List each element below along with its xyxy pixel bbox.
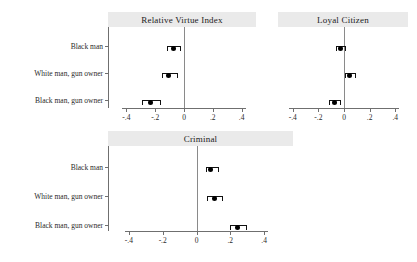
- confidence-interval-cap: [218, 167, 219, 172]
- coefficient-plot-figure: Relative Virtue Index Loyal Citizen Crim…: [0, 0, 417, 262]
- x-axis-tick-label: -.2: [314, 113, 322, 122]
- y-axis-category-label: Black man, gun owner: [35, 96, 103, 105]
- zero-reference-line: [184, 27, 185, 108]
- confidence-interval-cap: [345, 73, 346, 78]
- y-axis-tick: [105, 73, 108, 74]
- y-axis-line: [108, 27, 109, 108]
- panel-title: Loyal Citizen: [317, 15, 369, 25]
- y-axis-tick: [105, 167, 108, 168]
- plot-area: [108, 27, 256, 108]
- confidence-interval-cap: [180, 46, 181, 51]
- confidence-interval-cap: [167, 46, 168, 51]
- x-axis-tick-label: -.4: [125, 236, 133, 245]
- y-axis-category-label: Black man: [71, 163, 103, 172]
- x-axis-tick-label: .2: [367, 113, 373, 122]
- estimate-point-marker: [347, 73, 352, 78]
- y-axis-tick: [105, 196, 108, 197]
- confidence-interval-cap: [160, 100, 161, 105]
- confidence-interval-cap: [246, 225, 247, 230]
- x-axis-tick: [242, 109, 243, 112]
- x-axis-tick: [344, 109, 345, 112]
- x-axis-tick: [129, 232, 130, 235]
- x-axis-tick-label: 0: [195, 236, 199, 245]
- x-axis-tick-label: .4: [239, 113, 245, 122]
- x-axis-tick: [370, 109, 371, 112]
- estimate-point-marker: [212, 196, 217, 201]
- plot-area: [108, 146, 293, 231]
- confidence-interval-cap: [345, 46, 346, 51]
- zero-reference-line: [344, 27, 345, 108]
- y-axis-tick: [105, 46, 108, 47]
- x-axis-tick: [230, 232, 231, 235]
- x-axis-tick: [155, 109, 156, 112]
- x-axis-tick: [293, 109, 294, 112]
- x-axis-tick-label: .2: [227, 236, 233, 245]
- confidence-interval-cap: [142, 100, 143, 105]
- x-axis-tick-label: -.4: [122, 113, 130, 122]
- confidence-interval-cap: [207, 196, 208, 201]
- y-axis-category-label: White man, gun owner: [34, 192, 103, 201]
- y-axis-line: [108, 146, 109, 231]
- panel-relative-virtue-index: Relative Virtue Index: [108, 12, 256, 108]
- x-axis-tick-label: 0: [342, 113, 346, 122]
- x-axis-tick-label: -.2: [151, 113, 159, 122]
- panel-title-bar: Criminal: [108, 131, 293, 146]
- confidence-interval-cap: [162, 73, 163, 78]
- confidence-interval-cap: [329, 100, 330, 105]
- x-axis-tick: [163, 232, 164, 235]
- panel-title-bar: Relative Virtue Index: [108, 12, 256, 27]
- x-axis-tick: [318, 109, 319, 112]
- x-axis-tick-label: 0: [182, 113, 186, 122]
- confidence-interval-cap: [340, 100, 341, 105]
- y-axis-category-label: Black man: [71, 42, 103, 51]
- confidence-interval-cap: [177, 73, 178, 78]
- estimate-point-marker: [148, 100, 153, 105]
- x-axis-tick-label: .4: [392, 113, 398, 122]
- panel-title: Criminal: [184, 134, 218, 144]
- zero-reference-line: [197, 146, 198, 231]
- estimate-point-marker: [332, 100, 337, 105]
- panel-title-bar: Loyal Citizen: [278, 12, 408, 27]
- y-axis-tick: [105, 100, 108, 101]
- x-axis-tick: [395, 109, 396, 112]
- plot-area: [278, 27, 408, 108]
- confidence-interval-cap: [336, 46, 337, 51]
- x-axis-tick-label: -.4: [289, 113, 297, 122]
- y-axis-tick: [105, 225, 108, 226]
- y-axis-category-label: Black man, gun owner: [35, 221, 103, 230]
- panel-criminal: Criminal: [108, 131, 293, 231]
- x-axis-tick: [184, 109, 185, 112]
- x-axis-tick: [126, 109, 127, 112]
- x-axis-tick: [197, 232, 198, 235]
- panel-title: Relative Virtue Index: [141, 15, 222, 25]
- confidence-interval-cap: [222, 196, 223, 201]
- confidence-interval-cap: [230, 225, 231, 230]
- x-axis-tick-label: .4: [261, 236, 267, 245]
- x-axis-tick: [264, 232, 265, 235]
- panel-loyal-citizen: Loyal Citizen: [278, 12, 408, 108]
- x-axis-tick-label: .2: [210, 113, 216, 122]
- confidence-interval-cap: [206, 167, 207, 172]
- x-axis-tick: [213, 109, 214, 112]
- x-axis-tick-label: -.2: [159, 236, 167, 245]
- y-axis-category-label: White man, gun owner: [34, 69, 103, 78]
- confidence-interval-cap: [355, 73, 356, 78]
